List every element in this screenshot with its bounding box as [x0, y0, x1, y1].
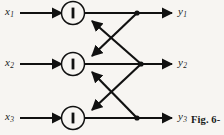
integrator-symbol-1 [72, 8, 75, 19]
input-label-x1-subscript: 1 [10, 10, 14, 19]
figure-canvas: x1 x2 x3 y1 y2 y3 Fig. 6- [0, 0, 224, 135]
output-label-y1: y1 [178, 6, 187, 19]
junction-dot-row1 [134, 10, 139, 15]
cross-edge-row2-to-node3 [92, 64, 141, 110]
integrator-symbol-3 [72, 113, 75, 124]
cross-edge-row2-to-node1 [92, 21, 141, 64]
output-label-y3: y3 [178, 111, 187, 124]
cross-edge-row3-to-node2 [92, 72, 137, 118]
output-label-y1-subscript: 1 [183, 10, 187, 19]
input-label-x3-subscript: 3 [10, 115, 14, 124]
output-label-y2: y2 [178, 57, 187, 70]
input-label-x2: x2 [5, 57, 14, 70]
output-label-y2-subscript: 2 [183, 61, 187, 70]
input-label-x2-subscript: 2 [10, 61, 14, 70]
input-label-x1: x1 [5, 6, 14, 19]
input-label-x3: x3 [5, 111, 14, 124]
figure-caption: Fig. 6- [191, 114, 220, 125]
junction-dot-row2 [138, 61, 143, 66]
cross-edge-row1-to-node2 [92, 13, 137, 56]
integrator-symbol-2 [72, 59, 75, 70]
junction-dot-row3 [134, 115, 139, 120]
output-label-y3-subscript: 3 [183, 115, 187, 124]
